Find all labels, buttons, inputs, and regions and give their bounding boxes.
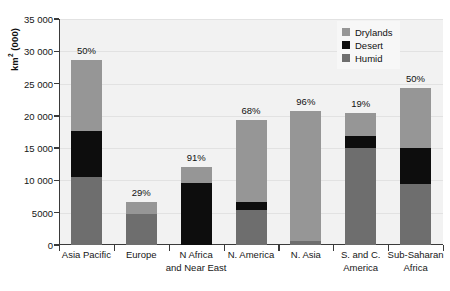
y-axis-labels: 0500010 00015 00020 00025 00030 00035 00…	[0, 0, 53, 291]
bar-percent-label: 50%	[406, 73, 425, 84]
y-axis-tick-label: 0	[5, 240, 53, 251]
bar-segment-humid	[345, 148, 376, 246]
legend-item[interactable]: Humid	[342, 52, 393, 64]
bar-segment-humid	[236, 210, 267, 246]
legend-swatch-icon	[342, 54, 350, 62]
bar-segment-drylands	[400, 88, 431, 148]
bar-segment-humid	[126, 214, 157, 245]
bar-segment-humid	[400, 184, 431, 245]
bar-percent-label: 19%	[351, 98, 370, 109]
legend-label: Desert	[355, 40, 383, 51]
x-axis-labels: Asia PacificEuropeN Africaand Near EastN…	[59, 249, 443, 291]
legend-item[interactable]: Desert	[342, 39, 393, 51]
bar-segment-drylands	[126, 202, 157, 215]
bar-percent-label: 96%	[296, 96, 315, 107]
legend-swatch-icon	[342, 28, 350, 36]
x-axis-label-line: Sub-Saharan	[382, 249, 449, 262]
y-axis-tick-label: 10 000	[5, 175, 53, 186]
x-axis-label-line: Africa	[382, 262, 449, 275]
bar-segment-desert	[71, 131, 102, 177]
legend-item[interactable]: Drylands	[342, 26, 393, 38]
bar-percent-label: 68%	[241, 105, 260, 116]
bar-segment-desert	[400, 148, 431, 184]
bar-n-africa-and-near-east[interactable]	[181, 167, 212, 245]
bar-segment-desert	[181, 183, 212, 245]
y-axis-tick-label: 30 000	[5, 46, 53, 57]
bar-s.-and-c.-america[interactable]	[345, 113, 376, 245]
bar-n.-asia[interactable]	[290, 111, 321, 245]
bar-n.-america[interactable]	[236, 120, 267, 245]
bar-segment-drylands	[236, 120, 267, 202]
legend-label: Humid	[355, 53, 382, 64]
bar-segment-humid	[71, 177, 102, 245]
bar-europe[interactable]	[126, 202, 157, 245]
y-axis-tick-label: 35 000	[5, 14, 53, 25]
bar-percent-label: 29%	[132, 187, 151, 198]
y-axis-tick-label: 5000	[5, 207, 53, 218]
legend-swatch-icon	[342, 41, 350, 49]
y-axis-tick-label: 15 000	[5, 143, 53, 154]
legend-label: Drylands	[355, 27, 393, 38]
legend: DrylandsDesertHumid	[337, 21, 400, 69]
y-axis-tick-label: 20 000	[5, 110, 53, 121]
bar-segment-drylands	[71, 60, 102, 131]
x-axis-label: Sub-SaharanAfrica	[382, 249, 449, 274]
bar-percent-label: 91%	[187, 152, 206, 163]
bar-sub-saharan-africa[interactable]	[400, 88, 431, 245]
bar-segment-drylands	[345, 113, 376, 137]
chart-figure: km2 (000) 0500010 00015 00020 00025 0003…	[0, 0, 450, 291]
bar-percent-label: 50%	[77, 45, 96, 56]
x-axis-label-line: and Near East	[163, 262, 230, 275]
bar-asia-pacific[interactable]	[71, 60, 102, 245]
bar-segment-drylands	[290, 111, 321, 241]
bar-segment-desert	[236, 202, 267, 209]
bar-segment-desert	[345, 136, 376, 147]
bar-segment-drylands	[181, 167, 212, 183]
y-axis-tick-label: 25 000	[5, 78, 53, 89]
